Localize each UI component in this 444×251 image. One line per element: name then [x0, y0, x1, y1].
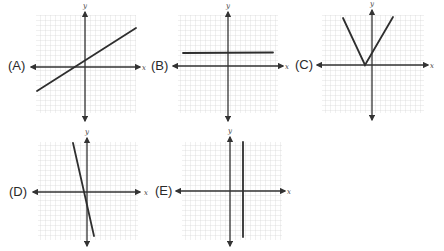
figure-canvas: x y x y x y x y x y	[0, 0, 444, 251]
y-axis-letter-d: y	[84, 128, 90, 136]
graph-panel-e: x y	[176, 127, 291, 246]
y-axis-letter-a: y	[82, 2, 88, 10]
x-axis-letter-c: x	[430, 62, 434, 70]
grid-d	[38, 142, 138, 240]
y-axis-letter-b: y	[225, 2, 231, 10]
graph-panel-d: x y	[33, 128, 148, 246]
grid-c	[322, 15, 424, 113]
graph-panel-a: x y	[31, 2, 146, 121]
x-axis-letter-b: x	[285, 63, 289, 71]
grid-a	[36, 15, 136, 113]
x-axis-letter-a: x	[142, 64, 146, 72]
x-axis-letter-d: x	[144, 189, 148, 197]
y-axis-letter-c: y	[369, 0, 375, 8]
graph-line-b	[183, 53, 273, 54]
graph-panel-c: x y	[317, 0, 434, 120]
y-axis-letter-e: y	[227, 127, 233, 135]
x-axis-letter-e: x	[287, 188, 291, 196]
graph-panel-b: x y	[173, 2, 289, 121]
